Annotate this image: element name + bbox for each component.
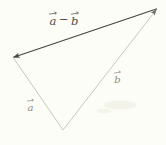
difference-vector-line [14, 9, 157, 58]
vector-a-symbol: a [27, 98, 34, 113]
vector-b-symbol: b [71, 11, 79, 28]
vector-b-letter: b [114, 75, 120, 85]
paper-smudge [104, 101, 136, 110]
vector-b-label: b [114, 66, 121, 85]
vector-diagram-svg [0, 0, 166, 145]
vector-a-label: a [27, 94, 34, 113]
minus-sign: − [59, 14, 69, 28]
difference-label: a − b [49, 11, 79, 28]
difference-lhs: a [50, 16, 57, 28]
vector-b-symbol: b [114, 70, 121, 85]
vector-subtraction-figure: a − b a b [0, 0, 166, 145]
vector-a-line [14, 58, 63, 130]
vector-a-letter: a [28, 103, 34, 113]
difference-rhs: b [71, 16, 78, 28]
vector-a-symbol: a [49, 11, 57, 28]
paper-smudge [97, 109, 111, 114]
